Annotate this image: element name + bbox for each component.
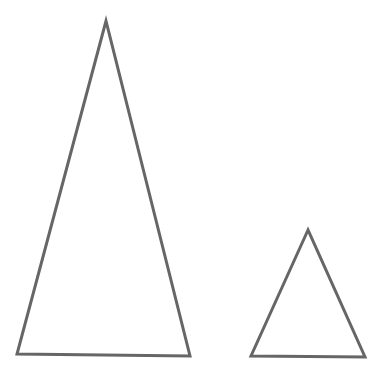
small-triangle xyxy=(251,230,365,357)
large-triangle xyxy=(17,21,190,356)
diagram-canvas xyxy=(0,0,384,380)
